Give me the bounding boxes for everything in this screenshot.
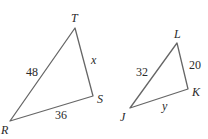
side-label-ts: x [90, 53, 97, 67]
side-label-jl: 32 [136, 65, 148, 79]
vertex-label-k: K [191, 85, 201, 99]
vertex-label-s: S [97, 92, 103, 106]
vertex-label-l: L [173, 27, 181, 41]
side-label-rs: 36 [55, 108, 67, 122]
similar-triangles-diagram: T R S 48 x 36 L K J 32 20 y [0, 0, 208, 139]
side-label-rt: 48 [26, 65, 38, 79]
triangle-rst: T R S 48 x 36 [0, 11, 103, 137]
side-label-jk: y [161, 99, 168, 113]
triangle-jkl: L K J 32 20 y [120, 27, 201, 124]
side-label-lk: 20 [189, 58, 201, 72]
vertex-label-j: J [120, 110, 126, 124]
vertex-label-r: R [0, 123, 9, 137]
vertex-label-t: T [71, 11, 79, 25]
triangle-rst-outline [10, 28, 93, 121]
